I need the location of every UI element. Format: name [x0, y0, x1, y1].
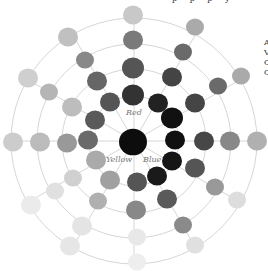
paint-blob — [228, 191, 246, 208]
paint-blob — [122, 58, 144, 79]
color-wheel-diagram — [0, 0, 268, 271]
label-red: Red — [126, 108, 142, 117]
paint-blob — [100, 171, 120, 190]
paint-blob — [220, 132, 240, 151]
paint-blob — [186, 236, 204, 253]
paint-blob — [57, 134, 77, 153]
paint-blob — [100, 93, 120, 112]
paint-blob — [209, 77, 227, 94]
paint-blob — [174, 216, 192, 233]
paint-blob — [128, 228, 146, 245]
paint-blob — [40, 83, 58, 100]
paint-blob — [194, 132, 214, 151]
paint-blob — [21, 196, 41, 215]
paint-blob — [232, 67, 250, 84]
paint-blob — [86, 151, 106, 170]
paint-blob — [123, 31, 143, 50]
paint-blob — [64, 169, 82, 186]
cropped-right-text: A V C C — [264, 38, 268, 78]
paint-blob — [60, 237, 80, 256]
cropped-right-line: C — [264, 58, 268, 68]
paint-blob — [87, 72, 107, 91]
paint-blob — [3, 133, 23, 152]
paint-blob — [85, 111, 105, 130]
cropped-top-text: p p p y — [172, 0, 235, 3]
paint-blob — [161, 108, 183, 129]
label-yellow: Yellow — [106, 155, 132, 164]
paint-blob — [128, 253, 146, 270]
paint-blob — [147, 167, 167, 186]
paint-blob — [126, 201, 146, 220]
paint-blob — [162, 152, 182, 171]
paint-blob — [186, 18, 204, 35]
paint-blob — [148, 94, 168, 113]
paint-blob — [185, 94, 205, 113]
paint-blob — [247, 132, 267, 151]
paint-blob — [162, 68, 182, 87]
paint-blob — [174, 43, 192, 60]
paint-blob — [119, 129, 147, 156]
paint-blob — [123, 6, 143, 25]
cropped-right-line: A — [264, 38, 268, 48]
cropped-right-line: C — [264, 68, 268, 78]
paint-blob — [46, 182, 64, 199]
paint-blob — [18, 69, 38, 88]
paint-blobs — [3, 6, 267, 271]
label-blue: Blue — [143, 155, 161, 164]
paint-blob — [122, 85, 144, 106]
paint-blob — [72, 217, 92, 236]
cropped-right-line: V — [264, 48, 268, 58]
paint-blob — [58, 28, 78, 47]
paint-blob — [30, 133, 50, 152]
paint-blob — [157, 190, 177, 209]
paint-blob — [76, 51, 94, 68]
paint-blob — [165, 131, 185, 150]
paint-blob — [127, 173, 147, 192]
paint-blob — [185, 159, 205, 178]
paint-blob — [89, 192, 107, 209]
paint-blob — [78, 131, 98, 150]
paint-blob — [62, 98, 82, 117]
paint-blob — [206, 178, 224, 195]
